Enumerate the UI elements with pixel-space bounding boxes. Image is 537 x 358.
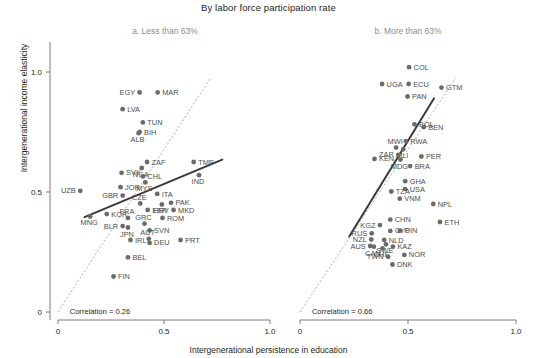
figure-container: By labor force participation rate a. Les…: [0, 0, 537, 358]
y-tick-label: 0.5: [31, 188, 43, 197]
data-point: [382, 238, 387, 243]
data-point-label: JOR: [125, 183, 140, 192]
data-point-label: PER: [426, 152, 441, 161]
y-tick-label: 0: [38, 308, 43, 317]
data-point-label: ROM: [167, 214, 184, 223]
data-point: [145, 160, 150, 165]
data-point: [126, 255, 131, 260]
data-point-label: IRL: [135, 236, 147, 245]
data-point-label: KEN: [379, 154, 394, 163]
data-point-label: ALB: [131, 135, 145, 144]
data-point-label: SVN: [154, 226, 169, 235]
correlation-annotation: Correlation = 0.66: [312, 307, 373, 316]
data-point: [386, 254, 391, 259]
data-point-label: EGY: [120, 88, 136, 97]
x-tick-label: 0: [298, 327, 303, 336]
data-point: [378, 223, 383, 228]
data-point-label: DEU: [154, 238, 170, 247]
data-point-label: BLR: [104, 222, 118, 231]
data-point: [408, 164, 413, 169]
data-point-label: NOR: [409, 250, 425, 259]
data-point: [111, 274, 116, 279]
data-point-label: AUS: [350, 242, 365, 251]
data-point: [396, 152, 401, 157]
x-tick-label: 1.0: [264, 327, 276, 336]
x-tick-label: 0.5: [158, 327, 170, 336]
data-point: [380, 82, 385, 87]
data-point-label: BEL: [132, 253, 146, 262]
data-point: [120, 224, 125, 229]
data-point-label: CHL: [147, 172, 162, 181]
data-point: [140, 120, 145, 125]
data-point: [390, 244, 395, 249]
data-point: [104, 212, 109, 217]
data-point: [388, 228, 393, 233]
data-point: [118, 185, 123, 190]
data-point: [147, 240, 152, 245]
data-point-label: MNG: [81, 218, 98, 227]
data-point: [119, 170, 124, 175]
correlation-annotation: Correlation = 0.26: [70, 307, 131, 316]
data-point: [403, 179, 408, 184]
data-point: [394, 145, 399, 150]
data-point-label: DNK: [397, 260, 413, 269]
panel-b-plot: 00.51.0COLUGAECUGTMPANBOLBENRWAMWIMLIZAR…: [298, 63, 522, 336]
data-point: [407, 65, 412, 70]
y-tick-label: 1.0: [31, 68, 43, 77]
data-point: [390, 262, 395, 267]
data-point-label: TUN: [147, 118, 162, 127]
data-point: [128, 238, 133, 243]
data-point: [397, 196, 402, 201]
data-point-label: ITA: [162, 190, 173, 199]
data-point-label: NPL: [438, 200, 452, 209]
data-point: [120, 107, 125, 112]
data-point: [155, 90, 160, 95]
data-point-label: ECU: [413, 80, 429, 89]
data-point: [169, 200, 174, 205]
data-point: [155, 192, 160, 197]
data-point: [431, 202, 436, 207]
data-point: [369, 237, 374, 242]
data-point: [403, 139, 408, 144]
data-point: [126, 216, 131, 221]
data-point: [191, 160, 196, 165]
y-axis-title: Intergenerational income elasticity: [19, 23, 29, 193]
data-point-label: RWA: [410, 137, 427, 146]
data-point: [142, 221, 147, 226]
data-point: [178, 238, 183, 243]
data-point: [138, 201, 143, 206]
data-point: [372, 156, 377, 161]
data-point-label: FRA: [120, 207, 135, 216]
data-point-label: PRT: [185, 236, 200, 245]
x-tick-label: 0.5: [402, 327, 414, 336]
data-point-label: ETH: [444, 218, 459, 227]
data-point-label: IND: [192, 177, 205, 186]
data-point-label: UGA: [387, 80, 403, 89]
data-point: [439, 85, 444, 90]
data-point: [406, 82, 411, 87]
data-point: [146, 236, 151, 241]
data-point: [412, 122, 417, 127]
panel-a-plot: 00.51.000.51.0UZBLVAEGYMARTUNBIHALBZAFNG…: [31, 42, 276, 336]
data-point-label: USA: [410, 185, 425, 194]
data-point-label: VNM: [404, 194, 420, 203]
data-point: [120, 193, 125, 198]
data-point-label: LVA: [127, 105, 140, 114]
data-point: [160, 216, 165, 221]
data-point: [140, 174, 145, 179]
data-point-label: FIN: [118, 272, 130, 281]
data-point-label: CHN: [395, 215, 411, 224]
data-point: [388, 217, 393, 222]
scatter-plot-canvas: 00.51.000.51.0UZBLVAEGYMARTUNBIHALBZAFNG…: [0, 0, 537, 358]
data-point: [389, 189, 394, 194]
data-point-label: BIH: [144, 128, 156, 137]
data-point: [369, 231, 374, 236]
data-point-label: ESP: [152, 206, 167, 215]
data-point-label: JPN: [120, 230, 134, 239]
data-point-label: TMP: [198, 158, 214, 167]
data-point: [438, 220, 443, 225]
data-point-label: CZE: [132, 193, 147, 202]
data-point: [405, 94, 410, 99]
data-point-label: UZB: [61, 186, 76, 195]
data-point-label: BEN: [428, 123, 443, 132]
